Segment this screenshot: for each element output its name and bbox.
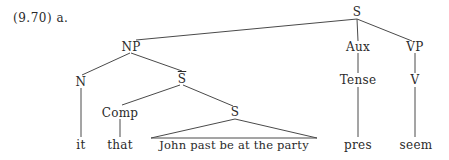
node-np: NP bbox=[121, 41, 140, 53]
edge-sbar-s bbox=[183, 85, 233, 106]
node-aux: Aux bbox=[346, 41, 370, 53]
leaf-that: that bbox=[107, 139, 133, 151]
leaf-seem: seem bbox=[400, 139, 433, 151]
node-comp: Comp bbox=[102, 107, 139, 119]
node-s-bar: S bbox=[178, 73, 187, 85]
edge-s-np bbox=[136, 19, 357, 40]
node-vp: VP bbox=[406, 41, 423, 53]
node-s-inner: S bbox=[231, 106, 240, 118]
edge-np-n bbox=[82, 53, 130, 75]
leaf-clause: John past be at the party bbox=[159, 139, 309, 151]
node-s-root: S bbox=[353, 6, 362, 18]
leaf-it: it bbox=[76, 139, 85, 151]
example-number: (9.70) a. bbox=[13, 11, 68, 25]
edge-sbar-comp bbox=[122, 85, 180, 105]
syntax-tree-diagram: (9.70) a. S NP Aux VP N S Tense V Comp S… bbox=[0, 0, 449, 160]
leaf-pres: pres bbox=[344, 139, 372, 151]
triangle-s-inner bbox=[151, 119, 317, 138]
edge-s-aux bbox=[357, 19, 358, 41]
edge-np-sbar bbox=[131, 53, 182, 71]
edge-s-vp bbox=[357, 19, 412, 41]
node-n: N bbox=[76, 76, 87, 88]
node-v: V bbox=[411, 74, 420, 86]
node-tense: Tense bbox=[340, 74, 377, 86]
